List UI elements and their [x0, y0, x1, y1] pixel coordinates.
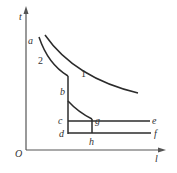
- curve-2-label: 2: [38, 55, 43, 66]
- x-axis-arrow-icon: [158, 148, 166, 153]
- curve-1: [45, 35, 138, 93]
- axes: [26, 10, 162, 150]
- curve-1-label: 1: [81, 68, 86, 79]
- point-d-label: d: [59, 128, 65, 139]
- point-g-label: g: [95, 115, 100, 126]
- y-axis-label: t: [19, 11, 22, 22]
- curve-c-g: [68, 101, 92, 119]
- diagram-canvas: t l O a 2 1 b c e g d f h: [0, 0, 177, 173]
- point-e-label: e: [152, 115, 157, 126]
- point-b-label: b: [60, 86, 65, 97]
- point-a-label: a: [28, 35, 33, 46]
- origin-label: O: [15, 148, 22, 159]
- point-c-label: c: [58, 115, 63, 126]
- x-axis-label: l: [155, 153, 158, 164]
- y-axis-arrow-icon: [24, 6, 29, 14]
- point-f-label: f: [154, 128, 158, 139]
- point-h-label: h: [89, 136, 94, 147]
